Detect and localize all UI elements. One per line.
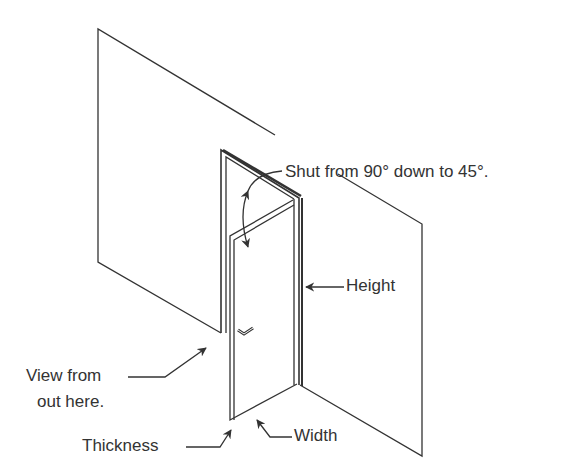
- height-label: Height: [346, 276, 395, 296]
- view-arrow-icon: [128, 348, 206, 377]
- thickness-label: Thickness: [82, 436, 159, 456]
- view-label-line2: out here.: [37, 392, 104, 412]
- door-panel: [230, 200, 297, 420]
- view-label-line1: View from: [26, 366, 101, 386]
- angle-label: Shut from 90° down to 45°.: [285, 162, 489, 182]
- width-arrow-icon: [257, 420, 292, 437]
- left-wall: [98, 29, 275, 333]
- door-frame: [221, 150, 302, 386]
- right-wall: [300, 174, 422, 456]
- width-label: Width: [294, 426, 337, 446]
- door-handle-icon: [238, 328, 253, 334]
- thickness-arrow-icon: [186, 430, 231, 447]
